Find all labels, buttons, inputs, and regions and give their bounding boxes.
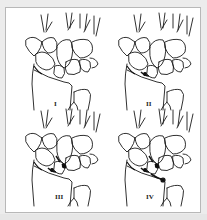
wrist-panel-stage-3: III bbox=[8, 106, 106, 209]
wrist-bones-illustration bbox=[101, 10, 199, 113]
stage-label: IV bbox=[146, 194, 154, 201]
wrist-panel-stage-2: II bbox=[101, 10, 199, 113]
wrist-panel-stage-4: IV bbox=[101, 106, 199, 209]
wrist-bones-illustration bbox=[8, 10, 106, 113]
bottom-strip bbox=[0, 214, 207, 220]
wrist-panel-stage-1: I bbox=[8, 10, 106, 113]
stage-label: III bbox=[55, 194, 63, 201]
